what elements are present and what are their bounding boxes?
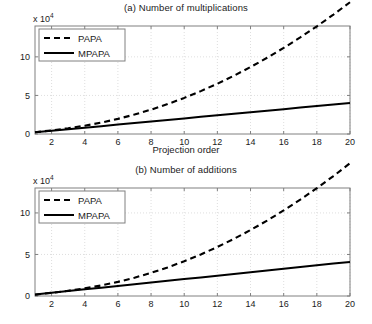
x-tick-label: 4: [82, 299, 87, 309]
x-tick-label: 10: [179, 299, 189, 309]
y-tick-label: 10: [20, 52, 30, 62]
panel-a-x-axis-label: Projection order: [0, 144, 372, 155]
legend-label-mpapa: MPAPA: [78, 210, 111, 221]
chart-panel-b: (b) Number of additions x 104 2468101214…: [0, 162, 372, 324]
y-tick-label: 0: [25, 129, 30, 139]
legend: PAPAMPAPA: [39, 29, 125, 61]
panel-b-plot: 24681012141618200510PAPAMPAPA: [0, 162, 372, 324]
y-tick-label: 5: [25, 91, 30, 101]
x-tick-label: 14: [246, 299, 256, 309]
panel-a-plot: 24681012141618200510PAPAMPAPA: [0, 0, 372, 162]
legend-label-papa: PAPA: [78, 195, 103, 206]
figure-container: (a) Number of multiplications x 104 2468…: [0, 0, 372, 324]
series-line-mpapa: [35, 262, 350, 295]
x-tick-label: 16: [279, 299, 289, 309]
legend-label-papa: PAPA: [78, 33, 103, 44]
x-tick-label: 8: [149, 299, 154, 309]
x-tick-label: 12: [212, 299, 222, 309]
y-tick-label: 0: [25, 291, 30, 301]
legend: PAPAMPAPA: [39, 191, 125, 223]
x-tick-label: 6: [115, 299, 120, 309]
series-line-mpapa: [35, 103, 350, 132]
series-line-papa: [35, 2, 350, 132]
x-tick-label: 18: [312, 299, 322, 309]
x-tick-label: 20: [345, 299, 355, 309]
x-tick-label: 2: [49, 299, 54, 309]
chart-panel-a: (a) Number of multiplications x 104 2468…: [0, 0, 372, 162]
y-tick-label: 5: [25, 250, 30, 260]
series-line-papa: [35, 163, 350, 294]
legend-label-mpapa: MPAPA: [78, 48, 111, 59]
y-tick-label: 10: [20, 208, 30, 218]
